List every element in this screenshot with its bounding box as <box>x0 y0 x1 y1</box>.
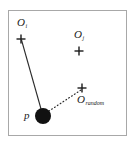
plus-marker-orandom <box>78 84 87 93</box>
label-o-i: Oi <box>17 17 27 28</box>
diagram-figure: Oi Oj Orandom p <box>0 0 139 147</box>
label-p: p <box>24 110 30 121</box>
label-o-j: Oj <box>74 29 84 40</box>
edge-p-to-oi <box>22 40 44 116</box>
plus-marker-oj <box>75 47 84 56</box>
edge-p-to-orandom <box>46 90 81 113</box>
label-o-random: Orandom <box>77 94 104 105</box>
plus-marker-oi <box>17 35 26 44</box>
point-p-dot <box>35 108 51 124</box>
